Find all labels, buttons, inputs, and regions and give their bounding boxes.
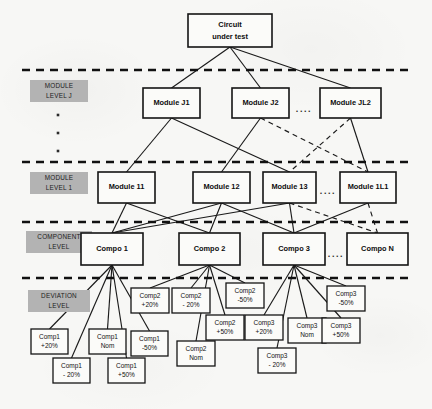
band-label-line1: DEVIATION (41, 292, 77, 299)
node-label-line1: Circuit (218, 20, 242, 29)
node-label: Compo 3 (278, 244, 310, 253)
node-label-line1: Comp3 (297, 322, 318, 330)
node-comp1-minus-50[interactable]: Comp1-50% (131, 331, 168, 356)
node-label-line2: +50% (333, 331, 350, 338)
node-compo-2[interactable]: Compo 2 (179, 233, 240, 265)
node-label: Module 12 (203, 182, 239, 191)
node-label-line1: Comp2 (235, 287, 256, 295)
node-label-line1: Comp3 (336, 290, 357, 298)
node-label: Module J1 (153, 98, 189, 107)
edge-module-12-to-compo-3 (222, 203, 295, 233)
node-label-line1: Comp2 (140, 292, 161, 300)
edge-compo-3-to-comp3-minus-50 (294, 265, 346, 286)
node-comp3-plus-50[interactable]: Comp3+50% (322, 318, 360, 343)
edge-circuit-under-test-to-module-j1 (172, 47, 231, 88)
node-module-j2[interactable]: Module J2 (232, 88, 289, 118)
node-comp3-minus-50[interactable]: Comp3-50% (327, 286, 365, 311)
node-label-line1: Comp1 (97, 333, 118, 341)
node-module-11[interactable]: Module 11 (98, 172, 155, 203)
node-label-line2: - 20% (269, 361, 286, 368)
node-module-jl2[interactable]: Module JL2 (320, 88, 381, 118)
node-label-line2: -50% (237, 296, 252, 303)
node-comp2-plus-20[interactable]: Comp2+20% (131, 288, 169, 313)
node-label-line2: +50% (118, 371, 135, 378)
edge-compo-2-to-comp2-plus-50 (210, 265, 226, 315)
node-label-line2: -50% (338, 299, 353, 306)
node-label: Module J2 (242, 98, 278, 107)
edge-module-1l1-to-compo-3 (294, 203, 368, 233)
vertical-continuation-dot-1 (57, 114, 60, 117)
node-compo-1[interactable]: Compo 1 (81, 233, 143, 265)
node-label-line2: +20% (256, 328, 273, 335)
band-label-line1: MODULE (45, 174, 74, 181)
node-comp2-minus-20[interactable]: Comp2- 20% (172, 288, 210, 313)
ellipsis-module-1: .... (320, 186, 336, 196)
node-comp1-nom[interactable]: Comp1Nom (89, 329, 126, 354)
edge-module-12-to-compo-2 (210, 203, 222, 233)
node-module-j1[interactable]: Module J1 (143, 88, 200, 118)
node-label-line2: +50% (217, 328, 234, 335)
ellipsis-module-j: .... (296, 104, 312, 114)
node-comp3-plus-20[interactable]: Comp3+20% (245, 315, 283, 340)
node-label: Module JL2 (330, 98, 371, 107)
edge-module-11-to-compo-1 (112, 203, 127, 233)
node-comp2-nom[interactable]: Comp2Nom (177, 341, 215, 366)
edge-module-j1-to-module-11 (127, 118, 172, 172)
edge-module-12-to-compo-1 (112, 203, 222, 233)
node-comp1-minus-20[interactable]: Comp1- 20% (53, 358, 90, 383)
node-module-12[interactable]: Module 12 (193, 172, 250, 203)
figure-hierarchical-partitioning: MODULELEVEL JMODULELEVEL 1COMPONENTLEVEL… (0, 0, 432, 409)
node-label-line2: -50% (142, 344, 157, 351)
node-label: Compo 2 (194, 244, 226, 253)
node-module-13[interactable]: Module 13 (263, 172, 316, 203)
node-label-line2: - 20% (183, 301, 200, 308)
node-label-line2: - 20% (63, 371, 80, 378)
band-label-line2: LEVEL (49, 243, 70, 250)
node-label-line2: under test (212, 32, 248, 41)
node-module-1l1[interactable]: Module 1L1 (340, 172, 396, 203)
node-label-line1: Comp1 (116, 362, 137, 370)
node-compo-n[interactable]: Compo N (347, 233, 408, 265)
node-comp2-minus-50[interactable]: Comp2-50% (226, 283, 264, 308)
band-label-line2: LEVEL 1 (46, 184, 73, 191)
band-label-line1: MODULE (45, 82, 74, 89)
node-comp1-plus-50[interactable]: Comp1+50% (108, 358, 145, 383)
level-band-module-level-j: MODULELEVEL J (30, 80, 88, 102)
node-comp1-plus-20[interactable]: Comp1+20% (31, 329, 68, 354)
edge-module-13-to-compo-n (290, 203, 378, 233)
edge-module-1l1-to-compo-n (368, 203, 378, 233)
node-label: Module 11 (109, 182, 145, 191)
node-label: Compo 1 (96, 244, 128, 253)
level-band-module-level-1: MODULELEVEL 1 (30, 172, 88, 194)
edge-module-j2-to-module-1l1 (261, 118, 369, 172)
node-label-line2: +20% (142, 301, 159, 308)
node-label-line1: Comp1 (39, 333, 60, 341)
node-label-line1: Comp3 (267, 352, 288, 360)
diagram-canvas: MODULELEVEL JMODULELEVEL 1COMPONENTLEVEL… (0, 0, 432, 409)
level-band-deviation-level: DEVIATIONLEVEL (28, 290, 90, 312)
node-label: Compo N (361, 244, 394, 253)
node-label-line2: Nom (300, 331, 314, 338)
ellipsis-component: .... (328, 249, 344, 259)
edge-module-j2-to-module-12 (222, 118, 261, 172)
node-comp3-minus-20[interactable]: Comp3- 20% (258, 348, 296, 373)
node-label: Module 1L1 (348, 182, 389, 191)
node-circuit-under-test[interactable]: Circuitunder test (188, 14, 272, 47)
band-label-line1: COMPONENT (37, 233, 80, 240)
node-label-line2: Nom (101, 342, 115, 349)
edge-circuit-under-test-to-module-j2 (230, 47, 261, 88)
edge-compo-3-to-comp3-plus-20 (264, 265, 294, 315)
node-label: Module 13 (271, 182, 307, 191)
node-label-line1: Comp1 (61, 362, 82, 370)
edge-circuit-under-test-to-module-jl2 (230, 47, 351, 88)
node-label-line1: Comp2 (181, 292, 202, 300)
node-compo-3[interactable]: Compo 3 (263, 233, 325, 265)
node-comp3-nom[interactable]: Comp3Nom (288, 318, 326, 343)
band-label-line2: LEVEL (49, 302, 70, 309)
node-label-line2: +20% (41, 342, 58, 349)
node-label-line1: Comp2 (215, 319, 236, 327)
edge-module-j1-to-module-13 (172, 118, 290, 172)
node-label-line1: Comp3 (331, 322, 352, 330)
node-comp2-plus-50[interactable]: Comp2+50% (206, 315, 244, 340)
node-label-line1: Comp3 (254, 319, 275, 327)
